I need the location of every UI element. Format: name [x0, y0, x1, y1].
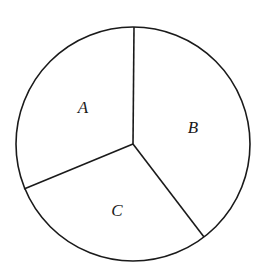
sector-label-c: C — [111, 201, 123, 220]
spoke-top — [133, 27, 134, 144]
pie-diagram: A B C — [0, 0, 265, 271]
sector-label-a: A — [77, 98, 89, 117]
spoke-bottom-right — [133, 144, 204, 237]
sector-label-b: B — [188, 118, 199, 137]
spoke-left — [24, 144, 133, 189]
